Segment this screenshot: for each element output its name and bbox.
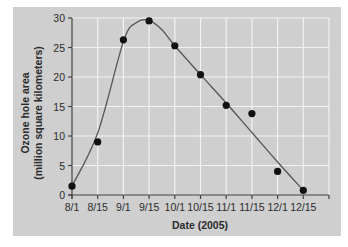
- x-tick-label: 8/15: [87, 201, 108, 213]
- x-tick-label: 8/1: [65, 201, 80, 213]
- y-tick-label: 5: [59, 160, 65, 172]
- fit-curve: [72, 20, 303, 191]
- data-point: [197, 71, 204, 78]
- y-tick-label: 10: [53, 130, 65, 142]
- y-axis-title: Ozone hole area (million square kilomete…: [19, 46, 44, 180]
- data-point: [68, 183, 75, 190]
- y-axis-ticks: 051015202530: [53, 12, 72, 201]
- data-point: [274, 168, 281, 175]
- x-tick-label: 12/15: [290, 201, 316, 213]
- x-tick-label: 11/1: [216, 201, 236, 213]
- data-point: [146, 17, 153, 24]
- y-tick-label: 25: [53, 42, 65, 54]
- data-point: [300, 187, 307, 194]
- grid-lines: [72, 18, 329, 195]
- data-point: [248, 110, 255, 117]
- y-tick-label: 20: [53, 71, 65, 83]
- y-tick-label: 0: [59, 189, 65, 201]
- y-axis-title-line1: Ozone hole area: [19, 72, 31, 153]
- data-point: [120, 36, 127, 43]
- ozone-hole-chart: 051015202530 8/18/159/19/1510/110/1511/1…: [0, 0, 348, 247]
- axes: [68, 18, 329, 199]
- data-point: [94, 138, 101, 145]
- x-tick-label: 10/1: [165, 201, 186, 213]
- y-axis-title-line2: (million square kilometers): [32, 46, 44, 180]
- y-tick-label: 15: [53, 101, 65, 113]
- x-tick-label: 11/15: [239, 201, 265, 213]
- data-points: [68, 17, 307, 194]
- y-tick-label: 30: [53, 12, 65, 24]
- x-tick-label: 9/1: [116, 201, 131, 213]
- data-point: [223, 102, 230, 109]
- x-tick-label: 10/15: [187, 201, 213, 213]
- x-axis-title: Date (2005): [172, 219, 228, 231]
- x-axis-ticks: 8/18/159/19/1510/110/1511/111/1512/112/1…: [65, 195, 329, 213]
- x-tick-label: 12/1: [267, 201, 288, 213]
- x-tick-label: 9/15: [139, 201, 160, 213]
- data-point: [171, 42, 178, 49]
